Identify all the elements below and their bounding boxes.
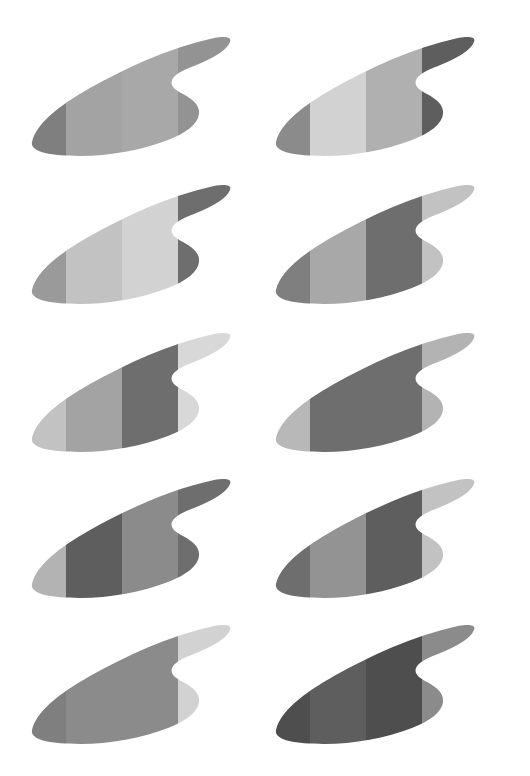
fin-band-group bbox=[262, 316, 507, 466]
fin-band-3 bbox=[122, 168, 178, 318]
fin-band-group bbox=[262, 168, 507, 318]
fin-band-group bbox=[18, 462, 263, 612]
fin-figure bbox=[18, 608, 263, 758]
fin-band-3 bbox=[366, 462, 422, 612]
fin-band-4 bbox=[422, 20, 507, 170]
fin-shape bbox=[262, 316, 507, 466]
fin-band-3 bbox=[122, 462, 178, 612]
fin-band-1 bbox=[18, 316, 66, 466]
fin-shape bbox=[18, 462, 263, 612]
fin-band-4 bbox=[178, 462, 263, 612]
fin-band-3 bbox=[366, 608, 422, 758]
fin-band-1 bbox=[262, 316, 310, 466]
fin-band-2 bbox=[310, 168, 366, 318]
fin-figure bbox=[18, 316, 263, 466]
fin-band-2 bbox=[66, 316, 122, 466]
fin-shape bbox=[18, 168, 263, 318]
fin-band-group bbox=[18, 608, 263, 758]
fin-band-1 bbox=[18, 20, 66, 170]
fin-band-1 bbox=[18, 168, 66, 318]
fin-band-1 bbox=[262, 168, 310, 318]
fin-figure bbox=[262, 462, 507, 612]
fin-shape bbox=[262, 462, 507, 612]
fin-band-1 bbox=[262, 608, 310, 758]
fin-figure bbox=[262, 316, 507, 466]
fin-band-1 bbox=[18, 608, 66, 758]
fin-band-3 bbox=[366, 20, 422, 170]
fin-band-1 bbox=[18, 462, 66, 612]
fin-band-4 bbox=[178, 20, 263, 170]
fin-band-4 bbox=[422, 316, 507, 466]
fin-band-group bbox=[18, 168, 263, 318]
fin-band-3 bbox=[366, 168, 422, 318]
fin-band-3 bbox=[122, 316, 178, 466]
fin-band-4 bbox=[422, 608, 507, 758]
fin-figure bbox=[262, 168, 507, 318]
fin-band-2 bbox=[66, 168, 122, 318]
fin-figure bbox=[18, 168, 263, 318]
fin-band-1 bbox=[262, 20, 310, 170]
fin-band-group bbox=[262, 462, 507, 612]
fin-band-3 bbox=[366, 316, 422, 466]
fin-band-group bbox=[18, 20, 263, 170]
figure-canvas bbox=[0, 0, 530, 776]
fin-figure bbox=[18, 462, 263, 612]
fin-band-2 bbox=[310, 316, 366, 466]
fin-band-4 bbox=[422, 168, 507, 318]
fin-band-4 bbox=[178, 316, 263, 466]
fin-band-group bbox=[262, 20, 507, 170]
fin-band-2 bbox=[66, 608, 122, 758]
fin-figure bbox=[18, 20, 263, 170]
fin-shape bbox=[262, 168, 507, 318]
fin-band-1 bbox=[262, 462, 310, 612]
fin-shape bbox=[18, 316, 263, 466]
fin-band-4 bbox=[178, 168, 263, 318]
fin-shape bbox=[18, 608, 263, 758]
fin-band-4 bbox=[422, 462, 507, 612]
fin-shape bbox=[18, 20, 263, 170]
fin-figure bbox=[262, 20, 507, 170]
fin-figure bbox=[262, 608, 507, 758]
fin-band-2 bbox=[310, 20, 366, 170]
fin-band-3 bbox=[122, 20, 178, 170]
fin-band-group bbox=[262, 608, 507, 758]
fin-band-2 bbox=[310, 608, 366, 758]
fin-band-2 bbox=[310, 462, 366, 612]
fin-shape bbox=[262, 20, 507, 170]
fin-shape bbox=[262, 608, 507, 758]
fin-band-group bbox=[18, 316, 263, 466]
fin-band-2 bbox=[66, 20, 122, 170]
fin-band-4 bbox=[178, 608, 263, 758]
fin-band-3 bbox=[122, 608, 178, 758]
fin-band-2 bbox=[66, 462, 122, 612]
